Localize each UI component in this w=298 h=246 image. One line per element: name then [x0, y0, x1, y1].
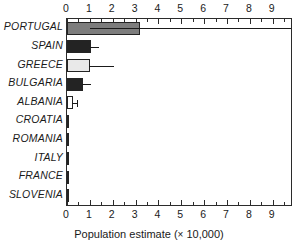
- bottom-tick-minor: [238, 202, 239, 205]
- bar-chart: 0123456789 PORTUGALSPAINGREECEBULGARIAAL…: [0, 0, 298, 246]
- top-tick-label: 6: [193, 2, 213, 14]
- category-label-croatia: CROATIA: [1, 114, 63, 125]
- bar-slovenia: [67, 189, 69, 202]
- category-label-slovenia: SLOVENIA: [1, 189, 63, 200]
- bottom-tick-major: [90, 200, 91, 205]
- x-axis-title-tail: 10,000): [183, 228, 223, 240]
- top-tick-label: 4: [147, 2, 167, 14]
- bar-romania: [67, 133, 69, 146]
- bottom-tick-major: [250, 200, 251, 205]
- bottom-tick-minor: [170, 202, 171, 205]
- top-tick-label: 2: [102, 2, 122, 14]
- bar-france: [67, 171, 69, 184]
- bottom-tick-major: [158, 200, 159, 205]
- error-bar-spain: [90, 47, 99, 48]
- bottom-tick-major: [227, 200, 228, 205]
- bottom-tick-label: 8: [239, 208, 259, 220]
- plot-area: [66, 18, 292, 206]
- bottom-tick-label: 2: [102, 208, 122, 220]
- bottom-tick-minor: [147, 202, 148, 205]
- category-label-albania: ALBANIA: [1, 96, 63, 107]
- top-tick-label: 8: [239, 2, 259, 14]
- error-bar-greece: [89, 66, 114, 67]
- top-tick-major: [158, 19, 159, 24]
- category-label-italy: ITALY: [1, 152, 63, 163]
- bottom-tick-minor: [193, 202, 194, 205]
- top-tick-label: 5: [170, 2, 190, 14]
- bottom-tick-label: 9: [262, 208, 282, 220]
- top-tick-minor: [170, 19, 171, 22]
- bottom-tick-minor: [261, 202, 262, 205]
- bottom-tick-label: 4: [147, 208, 167, 220]
- bar-bulgaria: [67, 78, 83, 91]
- bottom-tick-major: [181, 200, 182, 205]
- top-tick-minor: [216, 19, 217, 22]
- bottom-tick-minor: [124, 202, 125, 205]
- top-tick-major: [227, 19, 228, 24]
- bottom-tick-minor: [216, 202, 217, 205]
- bottom-tick-major: [273, 200, 274, 205]
- top-tick-minor: [284, 19, 285, 22]
- category-label-spain: SPAIN: [1, 40, 63, 51]
- category-label-france: FRANCE: [1, 170, 63, 181]
- bottom-tick-label: 0: [56, 208, 76, 220]
- bottom-tick-label: 7: [216, 208, 236, 220]
- top-tick-label: 7: [216, 2, 236, 14]
- category-label-portugal: PORTUGAL: [1, 21, 63, 32]
- bar-greece: [67, 59, 90, 72]
- bottom-tick-major: [204, 200, 205, 205]
- top-tick-label: 0: [56, 2, 76, 14]
- bottom-tick-label: 5: [170, 208, 190, 220]
- top-tick-label: 1: [79, 2, 99, 14]
- bottom-tick-major: [136, 200, 137, 205]
- x-axis-title-main: Population estimate (: [74, 228, 177, 240]
- top-tick-minor: [238, 19, 239, 22]
- bottom-tick-label: 1: [79, 208, 99, 220]
- top-tick-major: [204, 19, 205, 24]
- bottom-tick-minor: [78, 202, 79, 205]
- category-label-bulgaria: BULGARIA: [1, 77, 63, 88]
- error-bar-bulgaria: [82, 84, 91, 85]
- bottom-tick-minor: [101, 202, 102, 205]
- bar-croatia: [67, 115, 69, 128]
- error-bar-portugal: [90, 28, 291, 29]
- top-tick-label: 9: [262, 2, 282, 14]
- bar-italy: [67, 152, 69, 165]
- category-label-romania: ROMANIA: [1, 133, 63, 144]
- bottom-tick-minor: [284, 202, 285, 205]
- top-tick-major: [250, 19, 251, 24]
- top-tick-minor: [261, 19, 262, 22]
- bottom-tick-label: 3: [125, 208, 145, 220]
- category-label-greece: GREECE: [1, 59, 63, 70]
- bar-spain: [67, 40, 91, 53]
- bottom-tick-major: [113, 200, 114, 205]
- top-tick-major: [273, 19, 274, 24]
- top-tick-minor: [193, 19, 194, 22]
- top-tick-label: 3: [125, 2, 145, 14]
- error-bar-cap-albania: [77, 100, 78, 107]
- top-tick-minor: [147, 19, 148, 22]
- x-axis-title: Population estimate (× 10,000): [0, 228, 298, 240]
- top-tick-major: [181, 19, 182, 24]
- bottom-tick-label: 6: [193, 208, 213, 220]
